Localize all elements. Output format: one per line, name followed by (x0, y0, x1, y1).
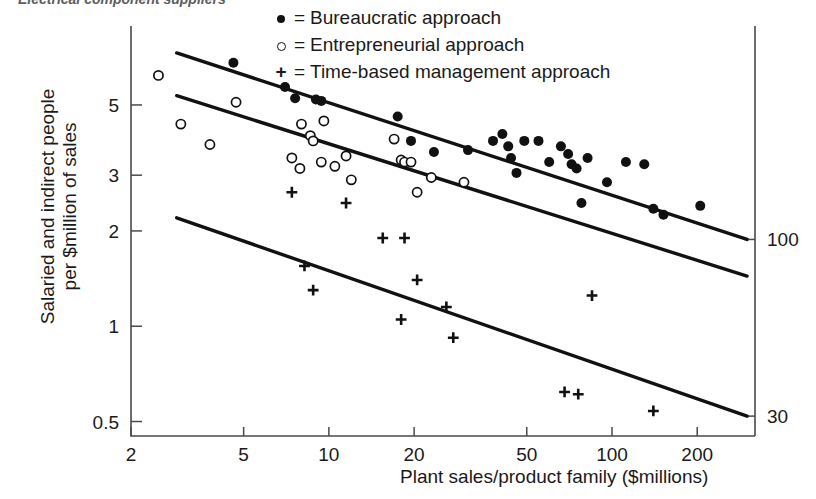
data-point-bureaucratic (429, 147, 439, 157)
x-tick-label: 20 (404, 444, 425, 465)
chart-figure: Electrical component suppliers = Bureauc… (0, 0, 816, 499)
data-point-entrepreneurial (406, 157, 415, 166)
y-tick-label: 1 (108, 316, 119, 337)
data-point-entrepreneurial (319, 116, 328, 125)
data-point-bureaucratic (503, 141, 513, 151)
data-point-bureaucratic (497, 129, 507, 139)
x-tick-label: 100 (596, 444, 628, 465)
data-point-entrepreneurial (330, 162, 339, 171)
data-point-entrepreneurial (427, 173, 436, 182)
data-point-entrepreneurial (341, 151, 350, 160)
y-axis-title: Salaried and indirect people per $millio… (37, 41, 82, 371)
data-point-bureaucratic (544, 157, 554, 167)
data-point-time-based (399, 233, 410, 244)
data-point-time-based (396, 314, 407, 325)
data-point-entrepreneurial (297, 119, 306, 128)
data-point-bureaucratic (695, 201, 705, 211)
data-point-bureaucratic (648, 204, 658, 214)
data-point-bureaucratic (393, 111, 403, 121)
x-tick-label: 5 (238, 444, 249, 465)
y-right-tick-label: 30 (767, 406, 788, 427)
data-point-time-based (648, 406, 659, 417)
axis-frame (131, 26, 755, 436)
data-point-entrepreneurial (154, 71, 163, 80)
data-point-bureaucratic (533, 136, 543, 146)
data-point-entrepreneurial (347, 175, 356, 184)
data-point-bureaucratic (576, 198, 586, 208)
x-axis-title: Plant sales/product family ($millions) (400, 466, 708, 488)
data-point-entrepreneurial (176, 119, 185, 128)
x-tick-label: 2 (126, 444, 137, 465)
data-point-time-based (587, 290, 598, 301)
data-point-entrepreneurial (287, 153, 296, 162)
data-point-time-based (559, 387, 570, 398)
y-tick-label: 0.5 (93, 412, 119, 433)
data-point-bureaucratic (280, 82, 290, 92)
data-point-bureaucratic (583, 153, 593, 163)
data-point-time-based (308, 285, 319, 296)
x-tick-label: 50 (516, 444, 537, 465)
y-tick-label: 2 (108, 221, 119, 242)
data-point-entrepreneurial (390, 135, 399, 144)
data-point-bureaucratic (519, 136, 529, 146)
data-point-time-based (448, 332, 459, 343)
data-point-bureaucratic (572, 163, 582, 173)
data-point-bureaucratic (658, 210, 668, 220)
data-point-entrepreneurial (205, 140, 214, 149)
data-point-time-based (412, 275, 423, 286)
data-point-entrepreneurial (317, 157, 326, 166)
data-point-entrepreneurial (231, 98, 240, 107)
y-tick-label: 5 (108, 95, 119, 116)
y-tick-label: 3 (108, 165, 119, 186)
data-point-entrepreneurial (295, 164, 304, 173)
y-right-tick-label: 100 (767, 229, 799, 250)
data-point-bureaucratic (556, 141, 566, 151)
data-point-entrepreneurial (413, 188, 422, 197)
x-tick-label: 200 (681, 444, 713, 465)
data-point-bureaucratic (506, 153, 516, 163)
data-point-bureaucratic (463, 145, 473, 155)
data-point-time-based (341, 198, 352, 209)
data-point-bureaucratic (639, 159, 649, 169)
data-point-time-based (377, 233, 388, 244)
plot-area: 251020501002000.5123530100 (0, 0, 816, 499)
data-point-bureaucratic (228, 58, 238, 68)
x-tick-label: 10 (318, 444, 339, 465)
data-point-time-based (286, 187, 297, 198)
data-point-bureaucratic (621, 157, 631, 167)
data-point-bureaucratic (406, 136, 416, 146)
data-point-bureaucratic (316, 96, 326, 106)
data-point-entrepreneurial (459, 178, 468, 187)
data-point-bureaucratic (563, 149, 573, 159)
data-point-bureaucratic (602, 177, 612, 187)
y-axis-title-line2: per $million of sales (59, 122, 80, 290)
data-point-bureaucratic (488, 136, 498, 146)
y-axis-title-line1: Salaried and indirect people (37, 89, 58, 325)
data-point-bureaucratic (512, 168, 522, 178)
data-point-bureaucratic (290, 93, 300, 103)
data-point-time-based (573, 389, 584, 400)
data-point-entrepreneurial (309, 136, 318, 145)
